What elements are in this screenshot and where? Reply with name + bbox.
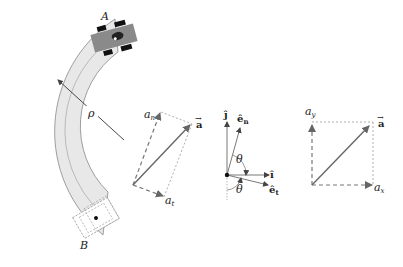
- a-n-label: an: [144, 108, 156, 122]
- theta-lower-label: θ: [236, 183, 243, 196]
- point-B-label: B: [79, 239, 88, 252]
- a-y-label: ay: [305, 105, 317, 119]
- a-t-vector: [133, 185, 163, 196]
- a-total-vector: [133, 125, 190, 185]
- point-A-label: A: [100, 10, 109, 23]
- a-n-vector: [133, 113, 160, 185]
- e-n-vector: [227, 128, 240, 175]
- normal-tangential-panel: an at a →: [133, 108, 203, 208]
- i-hat-label: î: [270, 169, 274, 180]
- theta-upper-label: θ: [236, 153, 243, 166]
- parallelogram-top: [161, 112, 192, 124]
- a-vec-arrow-xy: →: [377, 113, 384, 122]
- a-vec-arrow-nt: →: [195, 114, 202, 123]
- e-t-vector: [227, 175, 268, 185]
- parallelogram-right: [164, 124, 192, 197]
- a-x-label: ax: [374, 181, 385, 195]
- cartesian-panel: ay ax a →: [305, 105, 385, 195]
- origin-point: [225, 173, 229, 177]
- e-n-label: ên: [237, 113, 248, 126]
- j-hat-label: ĵ: [223, 109, 228, 120]
- a-t-label: at: [165, 194, 175, 208]
- unit-vector-panel: ĵ ên î êt θ θ: [223, 109, 279, 200]
- rho-label: ρ: [87, 107, 95, 120]
- e-t-label: êt: [269, 184, 279, 197]
- curvilinear-motion-diagram: A B ρ an at a → ĵ ên î êt θ θ: [0, 0, 403, 267]
- a-total-vector-xy: [312, 126, 369, 185]
